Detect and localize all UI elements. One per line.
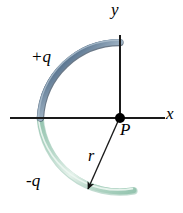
positive-charge-label: +q xyxy=(31,48,51,65)
x-axis-label: x xyxy=(166,105,174,122)
physics-figure: y x P r +q -q xyxy=(0,0,183,213)
origin-point-label: P xyxy=(120,121,130,138)
radius-label: r xyxy=(88,148,94,164)
y-axis-label: y xyxy=(111,1,119,18)
negative-charge-label: -q xyxy=(26,172,40,189)
arc-positive-charge-body xyxy=(40,42,120,118)
